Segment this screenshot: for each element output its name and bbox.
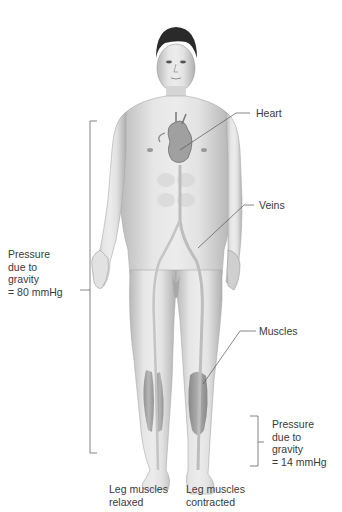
veins-label: Veins (259, 199, 285, 212)
pressure-label-bottom: Pressure due to gravity = 14 mmHg (272, 418, 327, 468)
muscles-label: Muscles (259, 325, 298, 338)
leg-relaxed-label: Leg muscles relaxed (109, 483, 168, 508)
heart-label: Heart (256, 107, 282, 120)
leg-contracted-label: Leg muscles contracted (186, 483, 245, 508)
pressure-bracket-left (80, 121, 97, 453)
head (156, 27, 197, 92)
pressure-bracket-right (250, 416, 264, 466)
pressure-label-top: Pressure due to gravity = 80 mmHg (8, 248, 63, 298)
